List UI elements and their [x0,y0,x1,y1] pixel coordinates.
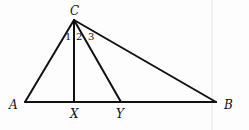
label-angle-2: 2 [76,31,82,42]
label-point-y: Y [116,107,125,121]
label-angle-3: 3 [88,31,94,42]
segment-bc [74,20,216,102]
label-point-b: B [223,98,233,112]
label-point-a: A [8,98,18,112]
triangle-figure: C A X Y B 1 2 3 [0,0,249,130]
label-angle-1: 1 [65,31,71,42]
label-point-x: X [69,107,79,121]
diagram-canvas: C A X Y B 1 2 3 [0,0,249,130]
label-point-c: C [70,4,79,18]
